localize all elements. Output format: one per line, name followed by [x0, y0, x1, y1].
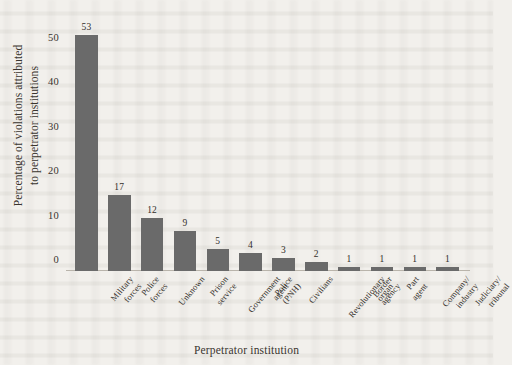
y-axis-title: Percentage of violations attributed to p… [8, 0, 46, 258]
bar-value-label: 1 [379, 254, 384, 264]
bar-civilians: 3 [272, 258, 295, 271]
y-axis-tick-10: 10 [48, 210, 59, 221]
bar-value-label: 2 [314, 249, 319, 259]
x-axis-label-police-forces: Policeforces [139, 274, 171, 306]
x-axis-label-company-industry: Company/industry [440, 274, 481, 317]
bar-value-label: 53 [81, 22, 91, 32]
x-axis-label-line-1: Unknown [177, 274, 207, 307]
x-axis-title: Perpetrator institution [0, 344, 493, 356]
bar-rect [371, 267, 394, 271]
bar-rect [108, 195, 131, 271]
bar-value-label: 17 [114, 182, 124, 192]
x-axis-label-prison-service: Prisonservice [206, 274, 239, 308]
y-axis-tick-0: 0 [53, 254, 59, 265]
bar-value-label: 1 [445, 254, 450, 264]
x-axis-category-labels: MilitaryforcesPoliceforcesUnknownPrisons… [66, 274, 470, 342]
x-axis-label-unknown: Unknown [177, 274, 208, 308]
bar-series: 531712954321111 [66, 22, 470, 271]
x-axis-label-military-forces: Militaryforces [109, 274, 145, 311]
bar-police-pnh: 4 [239, 253, 262, 271]
bar-rect [436, 267, 459, 271]
bar-prison-service: 9 [174, 231, 197, 271]
y-axis-tick-30: 30 [48, 121, 59, 132]
bar-military-forces: 53 [75, 35, 98, 271]
bar-rect [305, 262, 328, 271]
bar-value-label: 9 [182, 218, 187, 228]
bar-value-label: 3 [281, 245, 286, 255]
plot-area: 01020304050 531712954321111 [66, 22, 470, 271]
y-axis-tick-20: 20 [48, 165, 59, 176]
bar-company-industry: 1 [404, 267, 427, 271]
bar-rect [239, 253, 262, 271]
bar-unknown: 12 [141, 218, 164, 271]
bar-border-agency: 1 [338, 267, 361, 271]
x-axis-label-part-agent: Partagent [401, 274, 431, 303]
bar-rect [141, 218, 164, 271]
bar-value-label: 1 [412, 254, 417, 264]
bar-value-label: 4 [248, 240, 253, 250]
bar-rect [207, 249, 230, 271]
bar-rect [338, 267, 361, 271]
bar-rect [272, 258, 295, 271]
y-axis-tick-40: 40 [48, 76, 59, 87]
y-axis-title-line-1: Percentage of violations attributed [12, 45, 24, 207]
x-axis-label-civilians: Civilians [307, 274, 336, 306]
bar-police-forces: 17 [108, 195, 131, 271]
bar-value-label: 12 [147, 205, 157, 215]
bar-rect [404, 267, 427, 271]
y-axis-tick-50: 50 [48, 32, 59, 43]
bar-government-agent: 5 [207, 249, 230, 271]
bar-rect [75, 35, 98, 271]
bar-revolutionary-organ: 2 [305, 262, 328, 271]
bar-value-label: 1 [347, 254, 352, 264]
y-axis-title-line-2: to perpetrator institutions [28, 66, 40, 185]
bar-rect [174, 231, 197, 271]
bar-value-label: 5 [215, 236, 220, 246]
bar-part-agent: 1 [371, 267, 394, 271]
x-axis-label-judiciary-tribunal: Judiciary/tribunal [472, 274, 512, 315]
x-axis-label-line-1: Civilians [307, 274, 335, 305]
bar-judiciary-tribunal: 1 [436, 267, 459, 271]
